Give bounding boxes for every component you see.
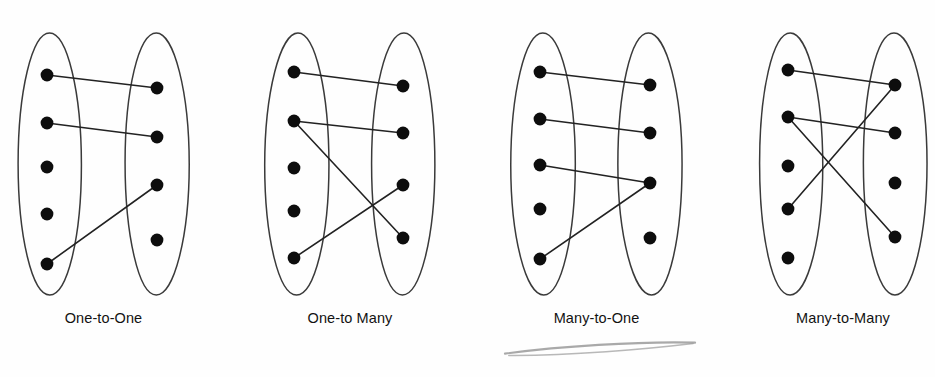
element-dot-R3 xyxy=(889,177,902,190)
element-dot-R2 xyxy=(397,127,410,140)
element-dot-L3 xyxy=(288,162,301,175)
element-dot-R4 xyxy=(397,232,410,245)
mapping-line-L2-to-R2 xyxy=(47,123,157,137)
entity-set-ellipse-right xyxy=(863,33,927,295)
pencil-scribble xyxy=(505,342,695,355)
mapping-line-L1-to-R1 xyxy=(47,75,157,88)
element-dot-L5 xyxy=(41,258,54,271)
element-dot-L1 xyxy=(41,69,54,82)
mapping-line-L2-to-R2 xyxy=(294,121,403,133)
panel-one-to-many xyxy=(265,33,435,295)
panel-label-one-to-many: One-to Many xyxy=(250,310,450,326)
element-dot-R1 xyxy=(644,79,657,92)
entity-set-ellipse-right xyxy=(618,33,682,295)
element-dot-L1 xyxy=(782,64,795,77)
element-dot-L4 xyxy=(782,203,795,216)
element-dot-R4 xyxy=(644,232,657,245)
element-dot-L4 xyxy=(288,205,301,218)
panel-one-to-one xyxy=(18,33,189,295)
entity-set-ellipse-right xyxy=(372,33,435,295)
entity-set-ellipse-right xyxy=(125,33,189,295)
element-dot-L3 xyxy=(534,159,547,172)
element-dot-L4 xyxy=(534,203,547,216)
element-dot-R3 xyxy=(397,179,410,192)
panel-many-to-many xyxy=(760,33,927,295)
mapping-line-L5-to-R3 xyxy=(47,185,157,264)
element-dot-L5 xyxy=(782,252,795,265)
panel-label-many-to-one: Many-to-One xyxy=(497,310,697,326)
element-dot-R1 xyxy=(397,80,410,93)
mapping-line-L4-to-R1 xyxy=(788,85,895,209)
element-dot-R3 xyxy=(644,177,657,190)
mapping-line-L2-to-R4 xyxy=(788,117,895,237)
element-dot-R3 xyxy=(151,179,164,192)
element-dot-R2 xyxy=(151,131,164,144)
element-dot-L3 xyxy=(41,161,54,174)
mapping-line-L2-to-R2 xyxy=(788,117,895,133)
mapping-line-L5-to-R3 xyxy=(540,183,650,259)
element-dot-R2 xyxy=(889,127,902,140)
panel-label-one-to-one: One-to-One xyxy=(4,310,204,326)
element-dot-R2 xyxy=(644,127,657,140)
panel-many-to-one xyxy=(511,33,682,295)
element-dot-L1 xyxy=(534,66,547,79)
element-dot-L5 xyxy=(534,253,547,266)
element-dot-L2 xyxy=(288,115,301,128)
element-dot-R1 xyxy=(889,79,902,92)
mapping-line-L2-to-R4 xyxy=(294,121,403,238)
mapping-line-L3-to-R3 xyxy=(540,165,650,183)
element-dot-R1 xyxy=(151,82,164,95)
mapping-line-L1-to-R1 xyxy=(294,72,403,86)
mapping-line-L2-to-R2 xyxy=(540,119,650,133)
element-dot-L3 xyxy=(782,160,795,173)
element-dot-R4 xyxy=(889,231,902,244)
element-dot-L5 xyxy=(288,252,301,265)
panel-label-many-to-many: Many-to-Many xyxy=(743,310,935,326)
element-dot-L4 xyxy=(41,208,54,221)
relationship-diagram: One-to-OneOne-to ManyMany-to-OneMany-to-… xyxy=(0,0,935,377)
element-dot-L2 xyxy=(782,111,795,124)
mapping-line-L1-to-R1 xyxy=(788,70,895,85)
element-dot-R4 xyxy=(151,234,164,247)
element-dot-L1 xyxy=(288,66,301,79)
element-dot-L2 xyxy=(534,113,547,126)
mapping-line-L1-to-R1 xyxy=(540,72,650,85)
element-dot-L2 xyxy=(41,117,54,130)
